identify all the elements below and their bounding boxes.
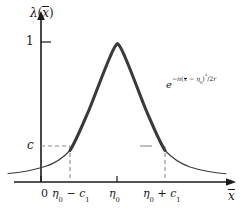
curve-right-tail <box>165 151 226 174</box>
c-subscript-left: 1 <box>85 196 89 204</box>
y-axis-label: λ(x) <box>30 7 54 19</box>
minus-operator: − <box>66 187 75 200</box>
y-axis-label-lambda: λ <box>30 6 38 20</box>
exp-square: 2 <box>205 72 207 77</box>
y-axis-label-paren-close: ) <box>49 6 54 20</box>
figure-container: λ(x) 1 c x 0 η0 − c1 η0 η0 + c1 e−n(x − … <box>0 0 243 211</box>
y-tick-label-one: 1 <box>26 35 34 47</box>
eta-symbol-center: η <box>109 187 116 200</box>
exp-minus-2: − <box>187 75 196 82</box>
formula-exponent: −n(x − η0)2/2r <box>172 75 216 82</box>
exp-eta-subscript: 0 <box>200 80 202 85</box>
curve-formula-annotation: e−n(x − η0)2/2r <box>166 80 216 90</box>
c-subscript-right: 1 <box>176 196 180 204</box>
curve-left-tail <box>8 151 70 174</box>
plus-operator: + <box>157 187 166 200</box>
x-tick-label-origin: 0 <box>41 188 48 199</box>
exp-r: r <box>213 75 216 82</box>
eta-subscript-right: 0 <box>150 196 154 204</box>
x-tick-label-eta0-plus-c1: η0 + c1 <box>143 188 181 199</box>
eta-subscript-left: 0 <box>59 196 63 204</box>
x-axis-label: x <box>228 190 235 202</box>
x-axis-arrowhead <box>226 178 236 186</box>
eta-symbol-right: η <box>143 187 150 200</box>
threshold-label-c: c <box>27 139 34 151</box>
curve-main-bold <box>70 44 165 151</box>
x-tick-label-eta0: η0 <box>109 188 120 199</box>
plot-canvas <box>0 0 243 211</box>
eta-subscript-center: 0 <box>116 196 120 204</box>
y-axis-label-xbar: x <box>42 7 49 19</box>
x-axis-label-xbar: x <box>228 190 235 202</box>
eta-symbol-left: η <box>52 187 59 200</box>
x-tick-label-eta0-minus-c1: η0 − c1 <box>52 188 90 199</box>
